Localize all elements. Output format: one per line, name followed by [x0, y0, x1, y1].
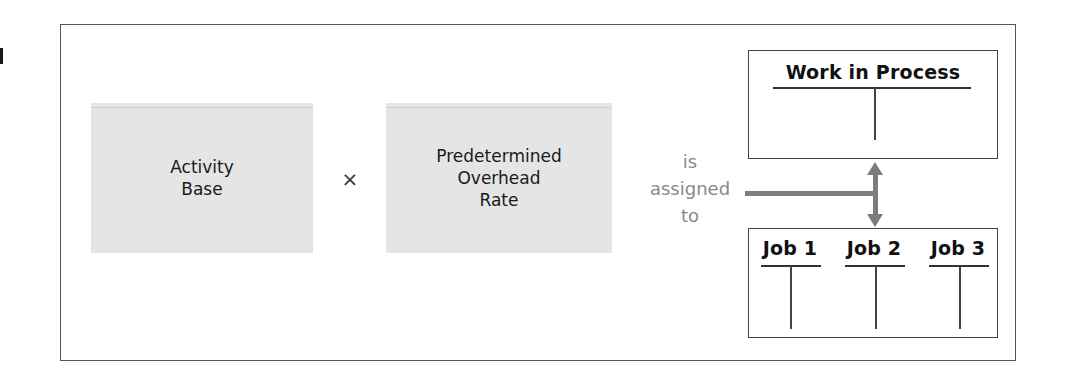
page-edge-mark: [0, 48, 3, 64]
assigned-to-label: is assigned to: [640, 148, 740, 229]
arrow-down-icon: [867, 214, 883, 227]
job-2-title: Job 2: [841, 237, 907, 259]
predetermined-rate-label: Predetermined Overhead Rate: [436, 145, 561, 211]
job-3-title: Job 3: [925, 237, 991, 259]
multiply-icon: ×: [340, 167, 360, 191]
job-1-title: Job 1: [757, 237, 823, 259]
job-2-divider: [875, 266, 877, 329]
t-account-divider: [874, 88, 876, 140]
activity-base-box: Activity Base: [91, 103, 313, 253]
work-in-process-title: Work in Process: [759, 61, 987, 83]
t-account-rule: [773, 87, 971, 89]
job-3-divider: [959, 266, 961, 329]
work-in-process-box: Work in Process: [748, 50, 998, 159]
activity-base-label: Activity Base: [170, 156, 234, 200]
job-accounts-box: Job 1 Job 2 Job 3: [748, 228, 998, 338]
job-1-divider: [790, 266, 792, 329]
predetermined-rate-box: Predetermined Overhead Rate: [386, 103, 612, 253]
assignment-arrow-stem: [873, 172, 878, 218]
assignment-arrow-line: [745, 191, 877, 196]
arrow-up-icon: [867, 162, 883, 175]
